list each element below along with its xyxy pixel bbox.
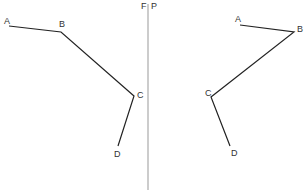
diagram-canvas: FP ABCD ABCD xyxy=(0,0,304,192)
mirror-label-f: F xyxy=(141,1,147,11)
mirror-labels: FP xyxy=(141,1,157,11)
reflection-diagram: FP ABCD ABCD xyxy=(0,0,304,192)
right-figure: ABCD xyxy=(205,14,303,158)
mirror-label-p: P xyxy=(151,1,157,11)
left-figure: ABCD xyxy=(4,16,144,159)
right-point-label-d: D xyxy=(231,148,238,158)
left-polyline xyxy=(9,26,134,146)
right-polyline xyxy=(211,25,294,146)
right-point-label-c: C xyxy=(205,88,212,98)
left-point-label-c: C xyxy=(137,90,144,100)
left-point-label-d: D xyxy=(114,149,121,159)
right-point-label-a: A xyxy=(235,14,241,24)
left-point-label-b: B xyxy=(59,19,65,29)
right-point-label-b: B xyxy=(297,24,303,34)
left-point-label-a: A xyxy=(4,16,10,26)
